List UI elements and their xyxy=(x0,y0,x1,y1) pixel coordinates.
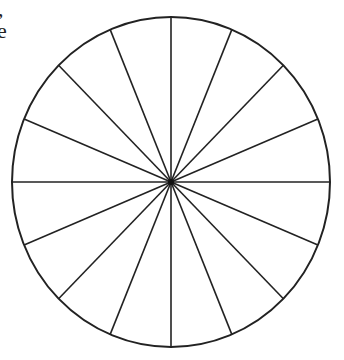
segmented-circle-diagram xyxy=(0,0,344,360)
center-point xyxy=(168,179,174,185)
